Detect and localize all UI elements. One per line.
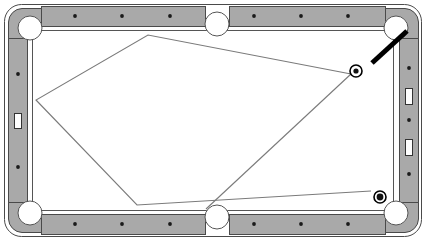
diamond-dot-bottom-2 [120,222,124,226]
pocket-top-side [205,12,229,36]
eight-ball [374,191,386,203]
table-cloth [33,31,394,211]
diamond-dot-bottom-4 [252,222,256,226]
pocket-bottom-side [205,205,229,229]
cue-ball [350,65,362,77]
diamond-dot-right-2 [407,118,411,122]
diamond-dot-bottom-6 [346,222,350,226]
pocket-top-left-corner [18,16,42,40]
diamond-dot-bottom-1 [73,222,77,226]
pocket-bottom-right-corner [384,201,408,225]
diamond-dot-right-3 [407,172,411,176]
diamond-dot-top-2 [120,14,124,18]
diamond-dot-bottom-3 [168,222,172,226]
diamond-dot-left-2 [16,165,20,169]
diamond-dot-right-1 [407,66,411,70]
diamond-dot-top-6 [346,14,350,18]
right-rail-marker-upper [406,89,413,105]
table-canvas [0,0,426,241]
pool-table-diagram: Pool Table Shot Diagram [0,0,426,241]
diamond-dot-top-1 [73,14,77,18]
diamond-dot-top-3 [168,14,172,18]
left-rail-marker [15,114,22,129]
eight-ball-inner [377,194,384,201]
pocket-bottom-left-corner [18,201,42,225]
diamond-dot-top-4 [252,14,256,18]
diamond-dot-top-5 [299,14,303,18]
diamond-dot-bottom-5 [299,222,303,226]
right-rail-marker-lower [406,140,413,156]
diamond-dot-left-1 [16,72,20,76]
cue-ball-inner [353,68,358,73]
